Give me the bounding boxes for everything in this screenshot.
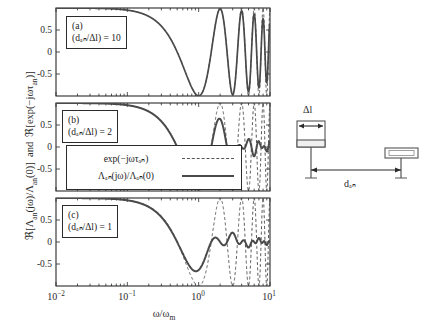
y-tick-b-2: -0.5 <box>26 164 52 174</box>
inset-delta-l-label: Δl <box>303 104 312 115</box>
panel-c-label-box: (c) (dₐₙ/Δl) = 1 <box>62 205 118 238</box>
panel-a-tag: (a) <box>72 20 121 32</box>
panel-a-label-box: (a) (dₐₙ/Δl) = 10 <box>66 16 127 49</box>
panel-c-tag: (c) <box>68 209 112 221</box>
x-tick-3: 101 <box>262 290 276 302</box>
panel-b-tag: (b) <box>68 114 112 126</box>
panel-b-label-box: (b) (dₐₙ/Δl) = 2 <box>62 110 118 143</box>
x-tick-2: 100 <box>191 290 205 302</box>
figure-root: ℜ[Λan(jω)/Λan(0)] and ℜ[exp(−jωτan)] <box>0 0 440 326</box>
panel-b-condition: (dₐₙ/Δl) = 2 <box>68 126 112 138</box>
y-tick-b-0: 0.5 <box>26 120 52 130</box>
x-tick-1: 10−1 <box>118 290 136 302</box>
y-tick-c-0: 0.5 <box>26 215 52 225</box>
y-tick-a-0: 0.5 <box>26 25 52 35</box>
transmit-aperture-base <box>297 140 325 147</box>
y-tick-c-1: 0 <box>26 237 52 247</box>
legend-swatch-dashed <box>182 154 234 164</box>
legend: exp(−jωτₐₙ) Λₐₙ(jω)/Λₐₙ(0) <box>66 145 242 190</box>
antenna-geometry-diagram <box>297 121 418 178</box>
panel-a-condition: (dₐₙ/Δl) = 10 <box>72 32 121 44</box>
inset-distance-label: dₐₙ <box>344 178 356 189</box>
y-tick-a-2: -0.5 <box>26 69 52 79</box>
x-tick-0: 10−2 <box>47 290 65 302</box>
legend-entry-actual: Λₐₙ(jω)/Λₐₙ(0) <box>74 167 234 184</box>
x-axis-label: ω/ωm <box>56 308 272 322</box>
y-tick-b-1: 0 <box>26 142 52 152</box>
legend-label-actual: Λₐₙ(jω)/Λₐₙ(0) <box>74 170 178 181</box>
legend-label-ideal: exp(−jωτₐₙ) <box>74 153 178 164</box>
panel-c-condition: (dₐₙ/Δl) = 1 <box>68 221 112 233</box>
legend-entry-ideal: exp(−jωτₐₙ) <box>74 150 234 167</box>
y-tick-a-1: 0 <box>26 47 52 57</box>
y-tick-c-2: -0.5 <box>26 259 52 269</box>
legend-swatch-solid <box>182 171 234 181</box>
